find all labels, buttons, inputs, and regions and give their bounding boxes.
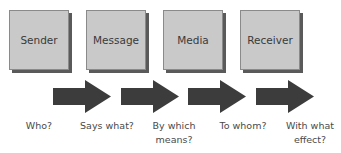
box-media: Media [163,10,223,70]
question-line: Says what? [72,119,142,133]
box-label: Sender [20,34,57,46]
box-message: Message [86,10,146,70]
question-line: Who? [4,119,74,133]
box-sender: Sender [9,10,69,70]
right-arrow-icon [53,80,111,113]
box-receiver: Receiver [240,10,300,70]
question-says-what: Says what? [72,119,142,133]
right-arrow-icon [188,80,246,113]
right-arrow-icon [256,80,314,113]
question-who: Who? [4,119,74,133]
question-line: effect? [275,133,341,147]
question-by-which-means: By which means? [139,119,209,147]
box-label: Message [93,34,139,46]
right-arrow-icon [121,80,179,113]
box-label: Media [177,34,209,46]
question-line: By which [139,119,209,133]
question-line: means? [139,133,209,147]
box-label: Receiver [247,34,292,46]
question-line: With what [275,119,341,133]
question-line: To whom? [208,119,278,133]
question-to-whom: To whom? [208,119,278,133]
question-with-what-effect: With what effect? [275,119,341,147]
